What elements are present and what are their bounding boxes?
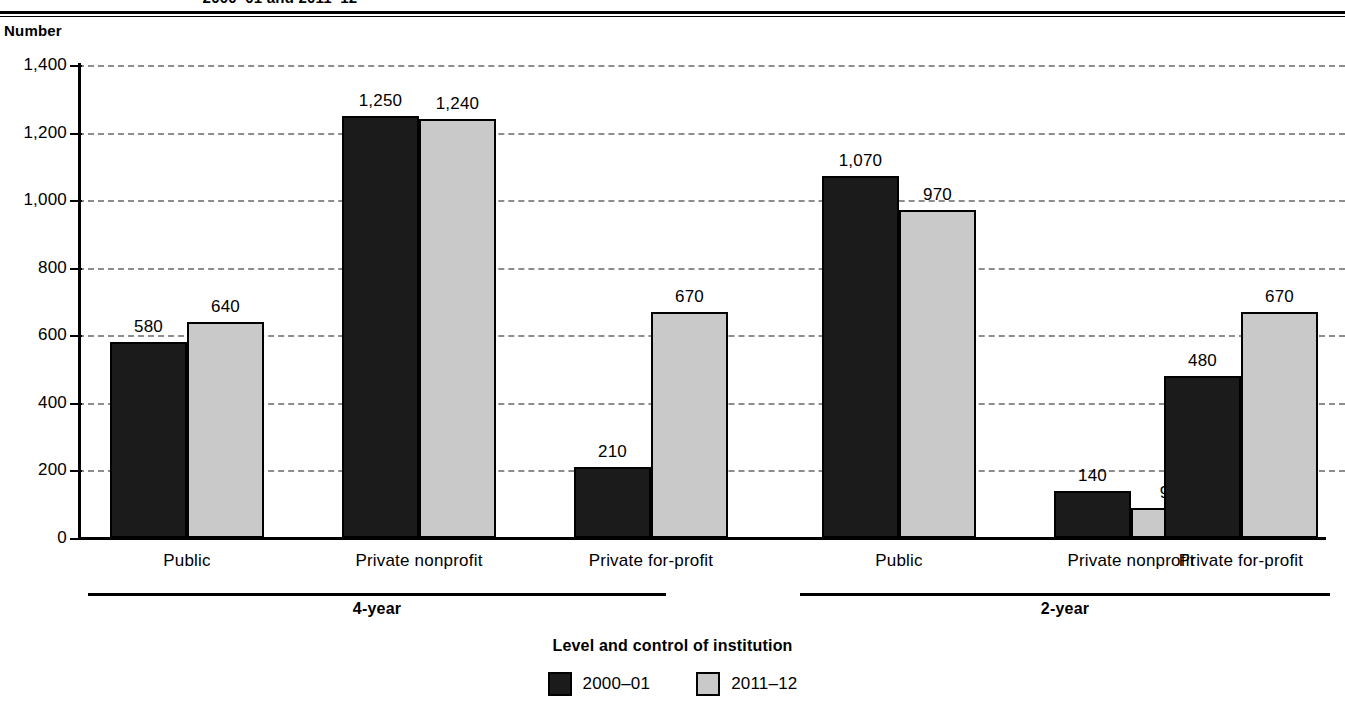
x-axis-title: Level and control of institution <box>0 637 1345 655</box>
y-axis-tick-label: 200 <box>38 460 67 480</box>
legend-label: 2000–01 <box>583 674 651 694</box>
group-label: 2-year <box>800 600 1330 618</box>
bar-value-label: 210 <box>560 442 665 462</box>
bar <box>651 312 728 538</box>
bar <box>419 119 496 538</box>
y-axis-tick-label: 400 <box>38 393 67 413</box>
x-axis-category-label: Private for-profit <box>541 551 761 571</box>
y-axis-tick <box>70 538 82 540</box>
y-axis-tick <box>70 403 82 405</box>
x-axis-category-label: Public <box>789 551 1009 571</box>
y-axis-tick <box>70 133 82 135</box>
legend-label: 2011–12 <box>731 674 797 694</box>
x-axis-category-label: Private for-profit <box>1131 551 1345 571</box>
bar <box>110 342 187 538</box>
legend-item: 2000–01 <box>548 672 651 696</box>
x-axis-category-label: Private nonprofit <box>309 551 529 571</box>
bar <box>342 116 419 538</box>
bar-value-label: 670 <box>637 287 742 307</box>
group-label: 4-year <box>88 600 666 618</box>
gridline <box>78 65 1345 67</box>
bar-value-label: 970 <box>885 185 990 205</box>
y-axis-tick-label: 0 <box>57 528 67 548</box>
y-axis-tick-label: 1,000 <box>23 190 67 210</box>
bar <box>899 210 976 538</box>
x-axis-category-label: Public <box>77 551 297 571</box>
y-axis-tick-label: 1,200 <box>23 123 67 143</box>
y-axis-tick <box>70 200 82 202</box>
bar-value-label: 640 <box>173 297 278 317</box>
bar-value-label: 1,070 <box>808 151 913 171</box>
bar <box>1241 312 1318 538</box>
group-rule <box>800 593 1330 596</box>
bar-value-label: 480 <box>1150 351 1255 371</box>
group-rule <box>88 593 666 596</box>
y-axis-tick <box>70 470 82 472</box>
bar <box>822 176 899 538</box>
bar-value-label: 580 <box>96 317 201 337</box>
y-axis-tick <box>70 65 82 67</box>
legend-item: 2011–12 <box>696 672 797 696</box>
y-axis-tick <box>70 335 82 337</box>
y-axis-tick-label: 600 <box>38 325 67 345</box>
legend-swatch <box>548 672 572 696</box>
bar <box>574 467 651 538</box>
bar-value-label: 670 <box>1227 287 1332 307</box>
y-axis-tick <box>70 268 82 270</box>
legend-swatch <box>696 672 720 696</box>
y-axis-tick-label: 800 <box>38 258 67 278</box>
chart-legend: 2000–012011–12 <box>0 672 1345 696</box>
gridline <box>78 268 1345 270</box>
bar-value-label: 1,240 <box>405 94 510 114</box>
bar <box>1164 376 1241 538</box>
plot-area: 02004006008001,0001,2001,400 5806401,250… <box>0 0 1345 560</box>
bar <box>187 322 264 538</box>
y-axis-tick-label: 1,400 <box>23 55 67 75</box>
gridline <box>78 133 1345 135</box>
gridline <box>78 200 1345 202</box>
